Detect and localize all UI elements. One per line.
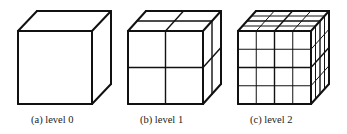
caption-level-2: (c) level 2: [250, 114, 293, 125]
cube-level-0: [18, 11, 111, 104]
caption-level-1: (b) level 1: [140, 114, 183, 125]
caption-level-0: (a) level 0: [31, 114, 74, 125]
cube-level-2: [238, 11, 329, 104]
cube-level-1: [128, 11, 221, 104]
